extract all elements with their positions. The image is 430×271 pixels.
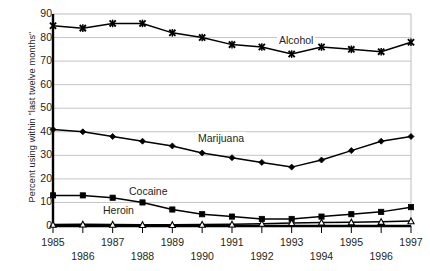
y-axis-tick-labels: 0102030405060708090 bbox=[22, 0, 52, 271]
y-axis-tick-label: 10 bbox=[26, 196, 52, 207]
x-axis-tick-label: 1988 bbox=[131, 250, 154, 262]
series-label-heroin: Heroin bbox=[101, 204, 136, 216]
y-axis-tick-label: 30 bbox=[26, 149, 52, 160]
x-axis-tick-label: 1997 bbox=[399, 236, 422, 248]
y-axis-tick-label: 70 bbox=[26, 55, 52, 66]
y-axis-tick-label: 60 bbox=[26, 79, 52, 90]
x-axis-tick-label: 1987 bbox=[101, 236, 124, 248]
series-label-cocaine: Cocaine bbox=[127, 185, 170, 197]
x-axis-tick-label: 1995 bbox=[340, 236, 363, 248]
series-label-alcohol: Alcohol bbox=[277, 34, 315, 46]
y-axis-tick-label: 0 bbox=[26, 220, 52, 231]
y-axis-tick-label: 80 bbox=[26, 32, 52, 43]
x-axis-tick-label: 1992 bbox=[250, 250, 273, 262]
series-label-marijuana: Marijuana bbox=[196, 132, 246, 144]
y-axis-tick-label: 40 bbox=[26, 126, 52, 137]
y-axis-tick-label: 20 bbox=[26, 173, 52, 184]
series-line bbox=[53, 23, 411, 54]
y-axis-tick-label: 90 bbox=[26, 8, 52, 19]
series-alcohol bbox=[50, 20, 414, 58]
x-axis-tick-label: 1986 bbox=[71, 250, 94, 262]
x-axis-tick-label: 1990 bbox=[190, 250, 213, 262]
drug-use-line-chart: Percent using within "last twelve months… bbox=[0, 0, 430, 271]
x-axis-tick-label: 1985 bbox=[41, 236, 64, 248]
x-axis-tick-label: 1993 bbox=[280, 236, 303, 248]
x-axis-tick-label: 1994 bbox=[310, 250, 333, 262]
x-axis-tick-label: 1989 bbox=[161, 236, 184, 248]
x-axis-tick-label: 1991 bbox=[220, 236, 243, 248]
y-axis-tick-label: 50 bbox=[26, 102, 52, 113]
x-axis-tick-label: 1996 bbox=[369, 250, 392, 262]
